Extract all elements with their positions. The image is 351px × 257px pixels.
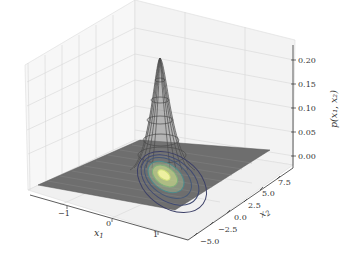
x-tick-label: 1	[153, 230, 158, 239]
z-axis-label: p(x₁, x₂)	[328, 90, 339, 128]
x-tick-label: −1	[58, 209, 70, 218]
z-tick-label: 0.10	[298, 104, 316, 113]
z-tick-label: 0.00	[298, 152, 316, 161]
surface-plot: 0.20 0.15 0.10 0.05 0.00 p(x₁, x₂) −5.0 …	[0, 0, 351, 257]
y-tick-label: 7.5	[278, 178, 291, 187]
z-tick-label: 0.20	[298, 56, 316, 65]
y-tick-label: −5.0	[200, 237, 219, 246]
y-tick-label: −2.5	[218, 225, 237, 234]
z-tick-label: 0.15	[298, 80, 316, 89]
y-tick-label: 5.0	[262, 189, 275, 198]
x-tick-label: 0	[106, 219, 111, 228]
x-axis-label: x1	[94, 227, 104, 240]
y-tick-label: 0.0	[234, 213, 247, 222]
z-tick-label: 0.05	[298, 128, 316, 137]
